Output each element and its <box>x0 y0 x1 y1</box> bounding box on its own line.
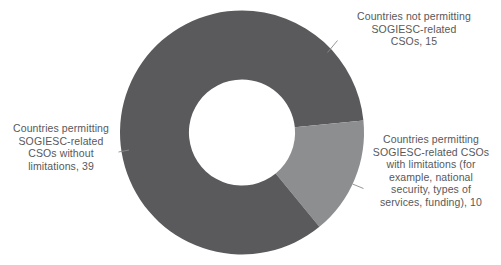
donut-chart: Countries not permitting SOGIESC-related… <box>0 0 501 265</box>
slice-label-without-limitations: Countries permitting SOGIESC-related CSO… <box>2 122 120 172</box>
slice-label-with-limitations: Countries permitting SOGIESC-related CSO… <box>362 133 500 209</box>
slice-label-not-permitting: Countries not permitting SOGIESC-related… <box>330 10 498 48</box>
donut-slices <box>120 11 364 255</box>
